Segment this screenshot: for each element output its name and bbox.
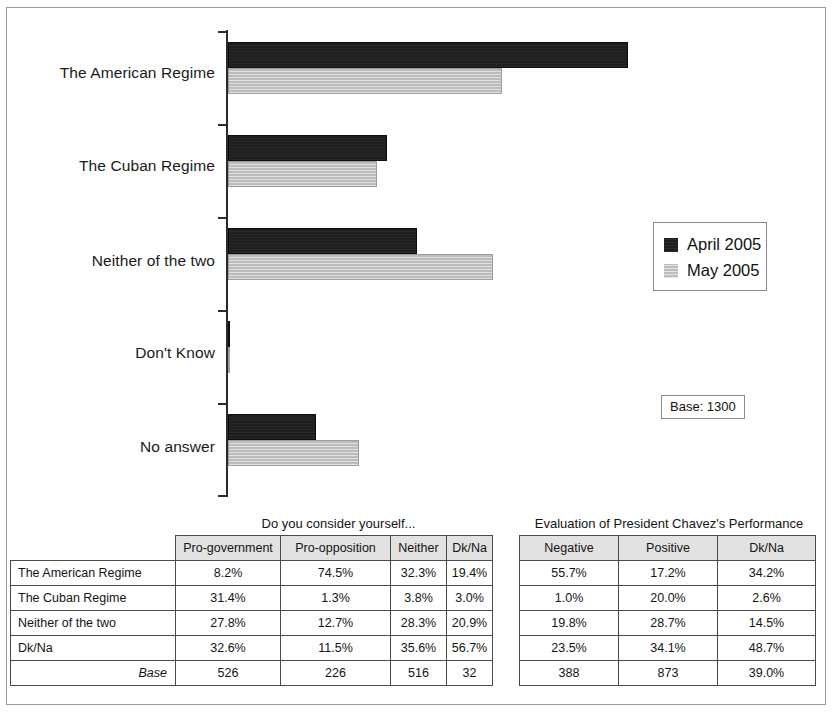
row-label: Dk/Na: [11, 636, 176, 661]
cell: 19.4%: [447, 561, 493, 586]
cell: 11.5%: [281, 636, 391, 661]
table-row: The American Regime 8.2% 74.5% 32.3% 19.…: [11, 561, 493, 586]
bar-may-the-american-regime: [228, 68, 502, 94]
cell: 28.7%: [619, 611, 718, 636]
cell: 20.9%: [447, 611, 493, 636]
cell: 74.5%: [281, 561, 391, 586]
base-cell: 388: [520, 661, 619, 686]
base-row-label: Base: [11, 661, 176, 686]
cell: 35.6%: [391, 636, 447, 661]
cell: 56.7%: [447, 636, 493, 661]
legend-label-april: April 2005: [687, 235, 761, 254]
chart-category-label-3: Don't Know: [15, 344, 215, 362]
right-table-caption: Evaluation of President Chavez's Perform…: [519, 516, 819, 531]
bar-april-neither-of-the-two: [228, 228, 417, 254]
bar-chart: The American Regime The Cuban Regime Nei…: [0, 0, 833, 512]
cell: 34.1%: [619, 636, 718, 661]
axis-tick: [218, 310, 227, 312]
bar-april-the-cuban-regime: [228, 135, 387, 161]
row-label: Neither of the two: [11, 611, 176, 636]
cell: 32.3%: [391, 561, 447, 586]
column-header-negative: Negative: [520, 536, 619, 561]
cell: 48.7%: [718, 636, 816, 661]
column-header-pro-government: Pro-government: [176, 536, 281, 561]
chart-base-note: Base: 1300: [661, 395, 745, 419]
table-row: 19.8% 28.7% 14.5%: [520, 611, 816, 636]
cell: 23.5%: [520, 636, 619, 661]
column-header-pro-opposition: Pro-opposition: [281, 536, 391, 561]
legend-swatch-dark-icon: [664, 238, 678, 252]
cell: 1.3%: [281, 586, 391, 611]
axis-tick: [218, 124, 227, 126]
table-header-row: Pro-government Pro-opposition Neither Dk…: [11, 536, 493, 561]
bar-may-neither-of-the-two: [228, 254, 493, 280]
table-base-row: Base 526 226 516 32: [11, 661, 493, 686]
consider-yourself-table: Pro-government Pro-opposition Neither Dk…: [10, 535, 493, 686]
base-cell: 226: [281, 661, 391, 686]
cell: 12.7%: [281, 611, 391, 636]
table-corner-cell: [11, 536, 176, 561]
left-table-section: Do you consider yourself... Pro-governme…: [10, 516, 502, 686]
base-cell: 873: [619, 661, 718, 686]
chavez-performance-table: Negative Positive Dk/Na 55.7% 17.2% 34.2…: [519, 535, 816, 686]
column-header-dkna: Dk/Na: [718, 536, 816, 561]
axis-tick: [218, 31, 227, 33]
base-cell: 516: [391, 661, 447, 686]
base-cell: 32: [447, 661, 493, 686]
bar-may-the-cuban-regime: [228, 161, 377, 187]
cell: 1.0%: [520, 586, 619, 611]
cell: 34.2%: [718, 561, 816, 586]
legend-swatch-light-icon: [664, 264, 678, 278]
table-row: The Cuban Regime 31.4% 1.3% 3.8% 3.0%: [11, 586, 493, 611]
legend-item-april: April 2005: [664, 235, 756, 254]
cell: 20.0%: [619, 586, 718, 611]
table-row: Neither of the two 27.8% 12.7% 28.3% 20.…: [11, 611, 493, 636]
row-label: The American Regime: [11, 561, 176, 586]
legend-item-may: May 2005: [664, 261, 756, 280]
cell: 19.8%: [520, 611, 619, 636]
axis-tick: [218, 403, 227, 405]
cell: 28.3%: [391, 611, 447, 636]
cell: 31.4%: [176, 586, 281, 611]
bar-may-dont-know: [228, 347, 230, 373]
column-header-neither: Neither: [391, 536, 447, 561]
chart-category-label-1: The Cuban Regime: [15, 157, 215, 175]
cell: 3.0%: [447, 586, 493, 611]
cell: 2.6%: [718, 586, 816, 611]
chart-legend: April 2005 May 2005: [653, 222, 767, 291]
cell: 17.2%: [619, 561, 718, 586]
bar-may-no-answer: [228, 440, 359, 466]
table-row: 55.7% 17.2% 34.2%: [520, 561, 816, 586]
base-cell: 39.0%: [718, 661, 816, 686]
table-row: Dk/Na 32.6% 11.5% 35.6% 56.7%: [11, 636, 493, 661]
chart-category-label-4: No answer: [15, 438, 215, 456]
cell: 32.6%: [176, 636, 281, 661]
cell: 14.5%: [718, 611, 816, 636]
left-table-caption: Do you consider yourself...: [175, 516, 502, 531]
cell: 27.8%: [176, 611, 281, 636]
cell: 8.2%: [176, 561, 281, 586]
table-base-row: 388 873 39.0%: [520, 661, 816, 686]
table-row: 23.5% 34.1% 48.7%: [520, 636, 816, 661]
column-header-positive: Positive: [619, 536, 718, 561]
bar-april-the-american-regime: [228, 42, 628, 68]
cell: 3.8%: [391, 586, 447, 611]
table-header-row: Negative Positive Dk/Na: [520, 536, 816, 561]
row-label: The Cuban Regime: [11, 586, 176, 611]
right-table-section: Evaluation of President Chavez's Perform…: [519, 516, 819, 686]
screenshot-page: The American Regime The Cuban Regime Nei…: [0, 0, 833, 714]
chart-category-label-0: The American Regime: [15, 64, 215, 82]
axis-tick: [218, 217, 227, 219]
legend-label-may: May 2005: [687, 261, 759, 280]
axis-tick: [218, 495, 227, 497]
base-cell: 526: [176, 661, 281, 686]
table-row: 1.0% 20.0% 2.6%: [520, 586, 816, 611]
column-header-dkna: Dk/Na: [447, 536, 493, 561]
bar-april-no-answer: [228, 414, 316, 440]
cell: 55.7%: [520, 561, 619, 586]
chart-category-label-2: Neither of the two: [15, 252, 215, 270]
bar-april-dont-know: [228, 321, 230, 347]
